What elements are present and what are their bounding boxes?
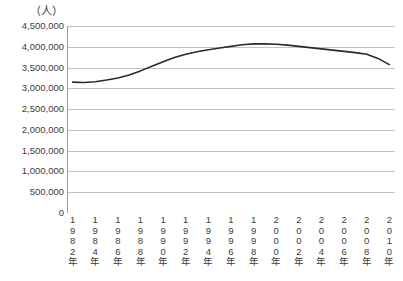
population-line-chart: （人） 4,500,0004,000,0003,500,0003,000,000… [0, 0, 403, 281]
x-tick-label: 2006年 [337, 215, 351, 268]
x-tick-label: 1994年 [201, 215, 215, 268]
y-tick-label: 4,500,000 [0, 21, 64, 31]
x-tick-label: 2002年 [292, 215, 306, 268]
y-axis-tick-labels: 4,500,0004,000,0003,500,0003,000,0002,50… [0, 0, 64, 281]
gridlines [67, 27, 395, 214]
x-tick-label: 1988年 [134, 215, 148, 268]
x-tick-label: 1998年 [247, 215, 261, 268]
y-tick-label: 2,500,000 [0, 104, 64, 114]
x-tick-label: 2004年 [314, 215, 328, 268]
y-tick-label: 3,000,000 [0, 83, 64, 93]
x-tick-label: 1996年 [224, 215, 238, 268]
x-tick-label: 2000年 [269, 215, 283, 268]
x-tick-label: 1992年 [179, 215, 193, 268]
population-series-line [73, 44, 390, 83]
y-tick-label: 4,000,000 [0, 42, 64, 52]
x-tick-label: 2010年 [382, 215, 396, 268]
x-tick-label: 1982年 [66, 215, 80, 268]
x-axis-tick-labels: 1982年1984年1986年1988年1990年1992年1994年1996年… [67, 215, 395, 279]
y-tick-label: 1,500,000 [0, 146, 64, 156]
plot-area [67, 26, 395, 213]
x-tick-label: 2008年 [360, 215, 374, 268]
plot-svg [67, 26, 395, 213]
y-tick-label: 2,000,000 [0, 125, 64, 135]
x-tick-label: 1986年 [111, 215, 125, 268]
y-tick-label: 500,000 [0, 187, 64, 197]
y-tick-label: 0 [0, 208, 64, 218]
x-tick-label: 1984年 [88, 215, 102, 268]
y-tick-label: 1,000,000 [0, 166, 64, 176]
y-tick-label: 3,500,000 [0, 63, 64, 73]
x-tick-label: 1990年 [156, 215, 170, 268]
